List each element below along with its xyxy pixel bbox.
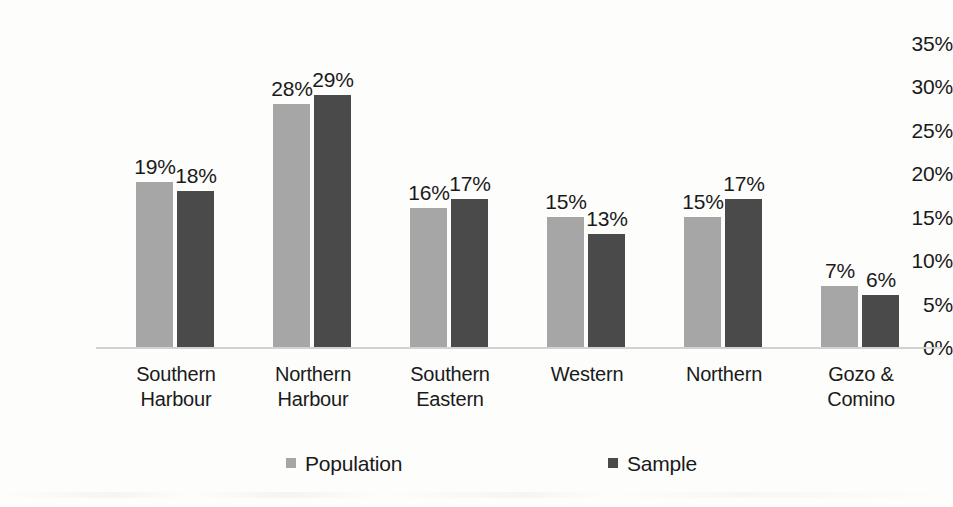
bar-group: 7% 6% Gozo & Comino — [821, 0, 945, 347]
bar-sample[interactable] — [588, 234, 625, 347]
legend-swatch-sample — [608, 458, 618, 468]
bar-population[interactable] — [547, 217, 584, 347]
x-axis-category-label: Western — [531, 362, 643, 387]
x-axis-category-label: Northern Harbour — [257, 362, 369, 412]
x-axis-category-line-2: Eastern — [394, 387, 506, 412]
x-axis-category-line-1: Gozo & — [805, 362, 917, 387]
chart-legend: Population Sample — [0, 449, 953, 477]
x-axis-category-line-1: Northern — [257, 362, 369, 387]
scan-artifact — [0, 492, 953, 498]
bar-group: 16% 17% Southern Eastern — [410, 0, 534, 347]
bar-group: 19% 18% Southern Harbour — [136, 0, 260, 347]
bar-population[interactable] — [136, 182, 173, 347]
bar-sample[interactable] — [725, 199, 762, 347]
bar-sample[interactable] — [314, 95, 351, 347]
x-axis-baseline — [96, 347, 941, 349]
bar-value-label-sample: 18% — [172, 165, 220, 186]
bar-value-label-sample: 17% — [720, 173, 768, 194]
bar-group: 28% 29% Northern Harbour — [273, 0, 397, 347]
x-axis-category-label: Southern Eastern — [394, 362, 506, 412]
bar-population[interactable] — [821, 286, 858, 347]
x-axis-category-line-1: Western — [531, 362, 643, 387]
bar-sample[interactable] — [177, 191, 214, 347]
legend-item-sample[interactable]: Sample — [608, 449, 697, 477]
bar-group: 15% 17% Northern — [684, 0, 808, 347]
x-axis-category-line-2: Harbour — [120, 387, 232, 412]
chart-figure: 35% 30% 25% 20% 15% 10% 5% 0% 19% 18% So… — [0, 0, 953, 507]
bar-value-label-sample: 29% — [309, 69, 357, 90]
x-axis-category-label: Gozo & Comino — [805, 362, 917, 412]
bar-population[interactable] — [273, 104, 310, 347]
bar-sample[interactable] — [862, 295, 899, 347]
x-axis-category-label: Southern Harbour — [120, 362, 232, 412]
legend-swatch-population — [286, 458, 296, 468]
legend-label-sample: Sample — [627, 453, 697, 474]
x-axis-category-line-1: Southern — [120, 362, 232, 387]
bar-value-label-sample: 17% — [446, 173, 494, 194]
bar-value-label-sample: 13% — [583, 208, 631, 229]
bar-population[interactable] — [410, 208, 447, 347]
x-axis-category-line-2: Harbour — [257, 387, 369, 412]
x-axis-category-line-2: Comino — [805, 387, 917, 412]
legend-label-population: Population — [305, 453, 402, 474]
x-axis-category-label: Northern — [668, 362, 780, 387]
x-axis-category-line-1: Northern — [668, 362, 780, 387]
plot-area: 35% 30% 25% 20% 15% 10% 5% 0% 19% 18% So… — [0, 0, 953, 360]
legend-item-population[interactable]: Population — [286, 449, 402, 477]
bar-sample[interactable] — [451, 199, 488, 347]
x-axis-category-line-1: Southern — [394, 362, 506, 387]
bar-population[interactable] — [684, 217, 721, 347]
bar-group: 15% 13% Western — [547, 0, 671, 347]
bar-value-label-sample: 6% — [857, 269, 905, 290]
